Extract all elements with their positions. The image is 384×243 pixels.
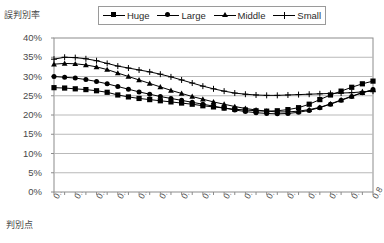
data-point-square-marker xyxy=(62,85,67,90)
data-point-square-marker xyxy=(370,79,375,84)
data-point-circle-marker xyxy=(211,104,216,109)
data-point-circle-marker xyxy=(179,98,184,103)
data-point-square-marker xyxy=(73,86,78,91)
data-point-circle-marker xyxy=(200,102,205,107)
data-point-square-marker xyxy=(147,97,152,102)
data-point-circle-marker xyxy=(105,81,110,86)
data-point-circle-marker xyxy=(158,94,163,99)
data-point-square-marker xyxy=(126,94,131,99)
data-point-square-marker xyxy=(136,96,141,101)
data-point-circle-marker xyxy=(83,77,88,82)
data-point-square-marker xyxy=(94,88,99,93)
data-point-circle-marker xyxy=(190,100,195,105)
data-point-circle-marker xyxy=(115,84,120,89)
data-point-square-marker xyxy=(83,87,88,92)
data-point-circle-marker xyxy=(73,76,78,81)
data-point-circle-marker xyxy=(52,74,57,79)
plot-area xyxy=(0,0,384,243)
data-point-circle-marker xyxy=(137,89,142,94)
data-point-circle-marker xyxy=(62,75,67,80)
data-point-circle-marker xyxy=(147,92,152,97)
chart-container: 誤判別率 判別点 HugeLargeMiddleSmall 40%35%30%2… xyxy=(0,0,384,243)
data-point-circle-marker xyxy=(126,87,131,92)
data-point-square-marker xyxy=(317,97,322,102)
data-point-circle-marker xyxy=(168,96,173,101)
data-point-square-marker xyxy=(115,92,120,97)
data-point-square-marker xyxy=(307,102,312,107)
data-point-square-marker xyxy=(51,85,56,90)
data-point-square-marker xyxy=(360,81,365,86)
data-point-square-marker xyxy=(349,85,354,90)
data-point-square-marker xyxy=(105,90,110,95)
data-point-circle-marker xyxy=(94,79,99,84)
